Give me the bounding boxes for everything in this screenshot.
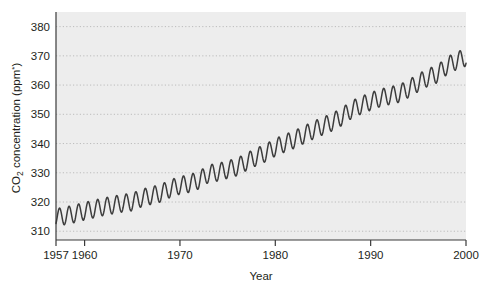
- plot-area-background: [56, 12, 466, 240]
- x-axis-title: Year: [249, 270, 272, 282]
- y-tick-label-370: 370: [31, 50, 50, 62]
- y-tick-label-310: 310: [31, 225, 50, 237]
- x-tick-label-1970: 1970: [167, 249, 193, 261]
- x-tick-label-2000: 2000: [453, 249, 479, 261]
- co2-concentration-chart: 310320330340350360370380 195719601970198…: [0, 0, 493, 291]
- x-tick-label-1960: 1960: [72, 249, 98, 261]
- y-tick-label-360: 360: [31, 79, 50, 91]
- y-tick-label-350: 350: [31, 108, 50, 120]
- y-axis-title-co: CO: [10, 176, 22, 193]
- y-tick-label-320: 320: [31, 196, 50, 208]
- y-axis-title-close: ): [10, 63, 22, 67]
- x-tick-label-1957: 1957: [43, 249, 69, 261]
- chart-canvas: 310320330340350360370380 195719601970198…: [0, 0, 493, 291]
- x-axis-ticks-group: [56, 240, 466, 246]
- y-axis-title-rest: concentration (ppm: [10, 70, 22, 172]
- x-tick-label-1980: 1980: [263, 249, 289, 261]
- x-tick-label-1990: 1990: [358, 249, 384, 261]
- x-axis-tick-labels-group: 195719601970198019902000: [43, 249, 479, 261]
- y-tick-label-380: 380: [31, 21, 50, 33]
- y-tick-label-340: 340: [31, 138, 50, 150]
- svg-text:CO2 concentration (ppm*): CO2 concentration (ppm*): [10, 63, 26, 194]
- y-tick-label-330: 330: [31, 167, 50, 179]
- y-axis-title: CO2 concentration (ppm*): [10, 63, 26, 194]
- y-axis-tick-labels-group: 310320330340350360370380: [31, 21, 50, 238]
